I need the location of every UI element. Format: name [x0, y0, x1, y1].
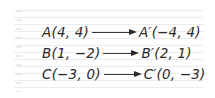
right-arrow-icon: [92, 27, 137, 37]
original-point-b: B(1, −2): [42, 45, 100, 61]
image-point-c: C′(0, −3): [144, 66, 206, 82]
image-point-a: A′(−4, 4): [139, 24, 201, 40]
right-arrow-icon: [103, 48, 139, 58]
right-arrow-icon: [104, 69, 142, 79]
mapping-row-b: B(1, −2) B′(2, 1): [42, 45, 192, 61]
mapping-row-a: A(4, 4) A′(−4, 4): [42, 24, 201, 40]
image-point-b: B′(2, 1): [141, 45, 191, 61]
original-point-a: A(4, 4): [42, 24, 89, 40]
mapping-row-c: C(−3, 0) C′(0, −3): [42, 66, 206, 82]
original-point-c: C(−3, 0): [42, 66, 101, 82]
margin-marks: [16, 6, 22, 92]
